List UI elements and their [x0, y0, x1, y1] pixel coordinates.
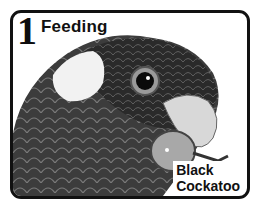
card-title: Feeding	[41, 17, 108, 37]
species-line-2: Cockatoo	[176, 178, 240, 194]
species-line-1: Black	[176, 162, 240, 178]
card-number: 1	[17, 11, 37, 51]
species-label: Black Cockatoo	[173, 161, 242, 194]
feeding-card: 1 Feeding Black Cockatoo	[10, 10, 250, 199]
